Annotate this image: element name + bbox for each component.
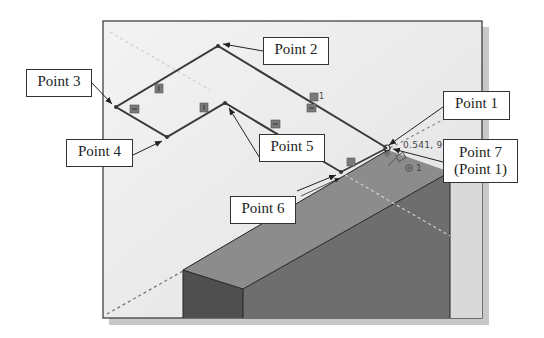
callout-label: Point 6 <box>242 200 285 216</box>
callout-label-line1: Point 7 <box>448 144 513 161</box>
relation-count-badge: 1 <box>319 92 324 101</box>
callout-label: Point 3 <box>38 73 81 89</box>
callout-label-line2: (Point 1) <box>448 161 513 178</box>
callout-point-3: Point 3 <box>26 69 92 97</box>
callout-label: Point 1 <box>455 95 498 111</box>
sketch-diagram: Point 2 Point 3 Point 4 Point 5 Point 6 … <box>0 0 544 338</box>
callout-label: Point 4 <box>78 143 121 159</box>
callout-point-6: Point 6 <box>230 196 296 224</box>
callout-point-7: Point 7 (Point 1) <box>443 139 518 183</box>
cursor-coordinate-readout: 0.541, 9 <box>403 140 443 150</box>
callout-point-4: Point 4 <box>66 139 133 167</box>
callout-point-2: Point 2 <box>263 37 329 65</box>
coincident-relation-icon <box>347 158 355 166</box>
concentric-count-badge: 1 <box>416 163 422 173</box>
coincident-relation-icon <box>310 93 318 101</box>
callout-label: Point 2 <box>275 41 318 57</box>
callout-point-1: Point 1 <box>443 91 510 120</box>
callout-label: Point 5 <box>271 138 314 154</box>
callout-point-5: Point 5 <box>259 134 325 162</box>
